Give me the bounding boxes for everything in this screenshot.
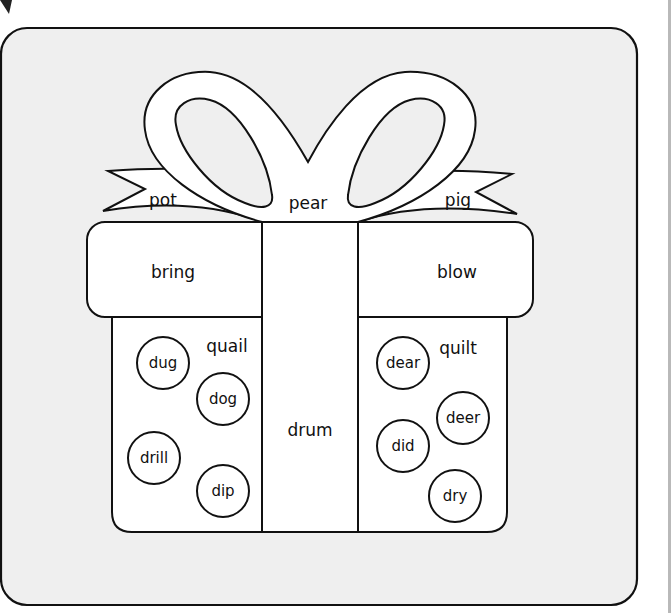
vertical-ribbon[interactable] <box>262 222 358 532</box>
lid-word-right[interactable]: blow <box>437 262 477 282</box>
word-circle[interactable]: drill <box>128 432 180 484</box>
corner-triangle-icon <box>0 0 12 14</box>
lid-word-left[interactable]: bring <box>151 262 195 282</box>
word-circle[interactable]: did <box>377 420 429 472</box>
word-circle[interactable]: dry <box>429 470 481 522</box>
circle-word: dear <box>386 354 421 372</box>
circle-word: dry <box>443 487 468 505</box>
circle-word: dug <box>149 354 178 372</box>
body-right-label[interactable]: quilt <box>439 338 477 358</box>
circle-word: did <box>391 437 414 455</box>
bow-word-right[interactable]: pig <box>445 190 471 210</box>
circle-word: dip <box>211 482 234 500</box>
bow-word-left[interactable]: pot <box>149 190 177 210</box>
circle-word: drill <box>140 449 168 467</box>
word-circle[interactable]: dear <box>377 337 429 389</box>
word-circle[interactable]: deer <box>437 392 489 444</box>
gift-worksheet: bring blow pot pear pig drum quail dug d… <box>0 0 671 613</box>
word-circle[interactable]: dog <box>197 373 249 425</box>
body-left-label[interactable]: quail <box>206 336 247 356</box>
circle-word: dog <box>209 390 237 408</box>
ribbon-word[interactable]: drum <box>287 420 332 440</box>
bow-word-center[interactable]: pear <box>289 193 328 213</box>
word-circle[interactable]: dip <box>197 465 249 517</box>
circle-word: deer <box>446 409 481 427</box>
word-circle[interactable]: dug <box>137 337 189 389</box>
